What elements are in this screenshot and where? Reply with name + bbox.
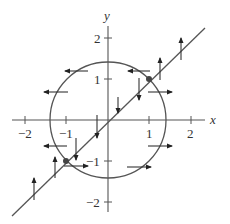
y-tick-label: 1 <box>94 72 101 87</box>
y-axis: 2 1 −1 −2 y <box>86 8 112 212</box>
x-axis-label: x <box>209 112 216 127</box>
y-axis-label: y <box>102 8 110 23</box>
y-tick-label: 2 <box>94 31 101 46</box>
phase-plane-figure: −2 −1 1 2 x 2 1 −1 −2 y <box>0 0 230 224</box>
x-tick-label: 2 <box>187 126 194 141</box>
equilibrium-point <box>63 158 69 164</box>
x-tick-label: −1 <box>59 126 73 141</box>
y-tick-label: −2 <box>86 195 100 210</box>
x-tick-label: −2 <box>18 126 32 141</box>
y-tick-label: −1 <box>86 154 100 169</box>
x-tick-label: 1 <box>146 126 153 141</box>
equilibrium-point <box>146 76 152 82</box>
